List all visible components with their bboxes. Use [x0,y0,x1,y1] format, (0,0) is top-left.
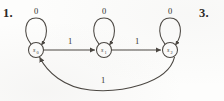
state-subscript-s1: 1 [105,50,107,55]
self-loop-label-s0: 0 [34,6,38,16]
figure-page: 1. 3. [0,0,224,101]
transition-label-s1-s2: 1 [135,36,139,46]
self-loop-label-s2: 0 [168,6,172,16]
self-loop-s2 [160,18,181,45]
state-machine-diagram: s 0 s 1 s 2 0 0 0 1 1 1 [0,0,224,101]
transition-s2-s0 [40,57,175,90]
transition-label-s0-s1: 1 [68,36,72,46]
self-loop-s1 [94,18,115,45]
self-loop-label-s1: 0 [102,6,106,16]
state-subscript-s2: 2 [171,50,173,55]
self-loop-s0 [26,18,47,45]
transition-label-s2-s0: 1 [101,75,105,85]
